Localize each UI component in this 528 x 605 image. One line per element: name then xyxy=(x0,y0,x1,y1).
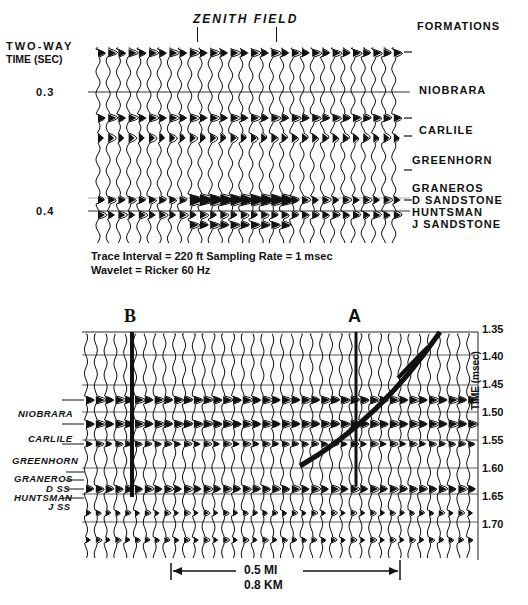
bottom-wiggle-traces xyxy=(0,0,528,605)
